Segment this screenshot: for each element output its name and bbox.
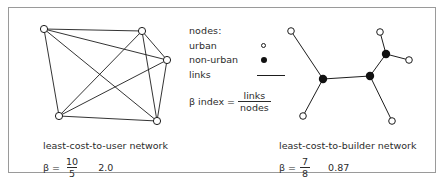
right-beta-symbol: β bbox=[279, 161, 285, 175]
beta-index-equals: = bbox=[227, 96, 235, 107]
urban-node bbox=[55, 112, 62, 119]
left-beta-equals: = bbox=[52, 161, 60, 175]
least-cost-to-user-network-graph bbox=[23, 16, 193, 136]
legend-label-urban: urban bbox=[189, 39, 217, 54]
link-edge bbox=[323, 76, 370, 79]
left-beta-equation: β = 10 5 2.0 bbox=[43, 156, 168, 179]
link-edge bbox=[44, 29, 142, 31]
beta-index-fraction: links nodes bbox=[238, 90, 271, 113]
left-beta-value: 2.0 bbox=[98, 161, 113, 175]
link-edge bbox=[59, 116, 157, 121]
right-beta-equals: = bbox=[288, 161, 296, 175]
urban-node bbox=[40, 25, 47, 32]
urban-node bbox=[377, 29, 384, 36]
graph-nodes bbox=[40, 25, 170, 124]
beta-index-numerator: links bbox=[242, 90, 268, 101]
link-edge bbox=[157, 60, 167, 121]
left-beta-symbol: β bbox=[43, 161, 49, 175]
link-edge bbox=[59, 31, 142, 116]
non-urban-node bbox=[382, 50, 390, 58]
right-beta-symbol-group: β = bbox=[279, 161, 296, 175]
left-beta-numerator: 10 bbox=[64, 156, 80, 167]
urban-node bbox=[153, 117, 160, 124]
legend-label-non-urban: non-urban bbox=[189, 53, 238, 68]
left-panel-caption: least-cost-to-user network β = 10 5 2.0 bbox=[43, 139, 168, 179]
urban-node bbox=[389, 118, 396, 125]
urban-node bbox=[163, 56, 170, 63]
left-beta-fraction: 10 5 bbox=[64, 156, 80, 179]
right-beta-numerator: 7 bbox=[300, 156, 310, 167]
right-beta-fraction: 7 8 bbox=[300, 156, 310, 179]
urban-node bbox=[288, 28, 295, 35]
urban-node bbox=[406, 57, 413, 64]
urban-node bbox=[138, 27, 145, 34]
beta-index-denominator: nodes bbox=[238, 101, 271, 113]
left-beta-symbol-group: β = bbox=[43, 161, 60, 175]
link-edge bbox=[291, 31, 323, 79]
beta-index-label: β index bbox=[189, 96, 224, 107]
right-beta-denominator: 8 bbox=[300, 167, 310, 179]
left-caption-text: least-cost-to-user network bbox=[43, 139, 168, 153]
beta-index-formula: β index = links nodes bbox=[189, 90, 271, 113]
link-edge bbox=[142, 31, 157, 121]
figure-frame: nodes: urban non-urban links β index = l… bbox=[8, 7, 436, 173]
link-edge bbox=[303, 79, 323, 116]
left-beta-denominator: 5 bbox=[67, 167, 77, 179]
graph-links bbox=[291, 31, 409, 121]
right-caption-text: least-cost-to-builder network bbox=[279, 139, 416, 153]
legend-label-links: links bbox=[189, 68, 211, 83]
right-beta-equation: β = 7 8 0.87 bbox=[279, 156, 416, 179]
link-edge bbox=[59, 60, 167, 116]
graph-links bbox=[44, 29, 167, 121]
non-urban-node bbox=[319, 75, 327, 83]
link-edge bbox=[44, 29, 59, 116]
non-urban-node bbox=[366, 72, 374, 80]
urban-node bbox=[300, 113, 307, 120]
link-edge bbox=[370, 76, 392, 121]
right-beta-value: 0.87 bbox=[328, 161, 349, 175]
right-panel-caption: least-cost-to-builder network β = 7 8 0.… bbox=[279, 139, 416, 179]
least-cost-to-builder-network-graph bbox=[273, 16, 433, 136]
